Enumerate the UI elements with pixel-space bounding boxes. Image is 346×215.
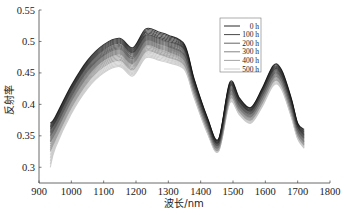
y-tick-label: 0.35 — [17, 130, 35, 141]
x-tick-label: 900 — [31, 186, 47, 197]
y-tick-label: 0.55 — [17, 5, 35, 16]
x-axis-title: 波长/nm — [164, 197, 203, 209]
x-tick-label: 1000 — [61, 186, 82, 197]
x-tick-label: 1200 — [126, 186, 147, 197]
y-tick-label: 0.5 — [22, 36, 35, 47]
x-tick-label: 1500 — [223, 186, 244, 197]
y-axis-title: 反射率 — [3, 85, 15, 115]
spectral-curves — [50, 28, 304, 167]
x-tick-label: 1800 — [320, 186, 341, 197]
y-tick-label: 0.45 — [17, 67, 35, 78]
legend-label: 500 h — [242, 65, 259, 74]
x-tick-label: 1300 — [158, 186, 179, 197]
reflectance-line-chart: 900100011001200130014001500160017001800 … — [0, 0, 346, 215]
x-tick-label: 1100 — [93, 186, 114, 197]
y-axis-ticks: 0.30.350.40.450.50.55 — [17, 5, 42, 173]
x-tick-label: 1600 — [255, 186, 276, 197]
y-tick-label: 0.3 — [22, 162, 35, 173]
x-tick-label: 1400 — [190, 186, 211, 197]
legend: 0 h100 h200 h300 h400 h500 h — [220, 18, 261, 74]
y-tick-label: 0.4 — [22, 99, 36, 110]
x-tick-label: 1700 — [287, 186, 308, 197]
